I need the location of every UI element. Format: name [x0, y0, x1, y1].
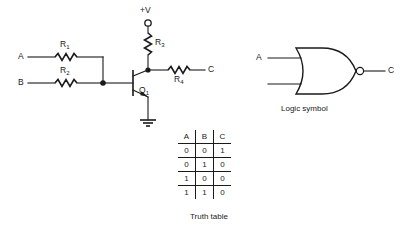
diagram-canvas: +V A B C R1 R2 R3 R4 Q1 A C Logic symbol… — [0, 0, 402, 236]
circuit-input-a-label: A — [18, 52, 24, 61]
truth-table-header-c: C — [214, 130, 232, 144]
resistor-r2-label: R2 — [60, 66, 69, 76]
truth-table-caption: Truth table — [190, 212, 228, 221]
truth-cell-b: 1 — [196, 158, 214, 172]
supply-label: +V — [140, 6, 151, 15]
truth-table: A B C 0 0 1 0 1 0 1 0 0 1 1 — [178, 130, 231, 199]
truth-cell-a: 1 — [178, 172, 196, 186]
base-junction-dot — [100, 80, 106, 86]
truth-table-header-a: A — [178, 130, 196, 144]
circuit-schematic-svg — [0, 0, 402, 236]
gate-output-c-label: C — [388, 66, 394, 75]
truth-cell-a: 0 — [178, 144, 196, 158]
truth-cell-c: 0 — [214, 172, 232, 186]
resistor-r4-symbol — [168, 67, 190, 74]
truth-cell-a: 1 — [178, 186, 196, 200]
truth-cell-b: 0 — [196, 144, 214, 158]
table-row: 1 0 0 — [178, 172, 231, 186]
truth-cell-c: 0 — [214, 186, 232, 200]
resistor-r3-symbol — [145, 33, 152, 55]
truth-table-header-b: B — [196, 130, 214, 144]
transistor-q1-label: Q1 — [139, 86, 149, 96]
inversion-bubble-icon — [356, 67, 363, 74]
nor-gate-body — [296, 48, 356, 94]
logic-symbol-caption: Logic symbol — [281, 104, 328, 113]
circuit-output-c-label: C — [208, 65, 214, 74]
truth-cell-b: 0 — [196, 172, 214, 186]
resistor-r3-label: R3 — [155, 38, 164, 48]
table-row: 0 0 1 — [178, 144, 231, 158]
truth-cell-c: 1 — [214, 144, 232, 158]
wire-collector-lead — [133, 70, 148, 76]
truth-cell-b: 1 — [196, 186, 214, 200]
circuit-input-b-label: B — [18, 78, 24, 87]
truth-table-header-row: A B C — [178, 130, 231, 144]
resistor-r1-symbol — [55, 54, 77, 61]
table-row: 0 1 0 — [178, 158, 231, 172]
supply-terminal — [145, 20, 151, 26]
resistor-r1-label: R1 — [60, 40, 69, 50]
resistor-r2-symbol — [55, 80, 77, 87]
table-row: 1 1 0 — [178, 186, 231, 200]
resistor-r4-label: R4 — [174, 75, 183, 85]
truth-cell-c: 0 — [214, 158, 232, 172]
gate-input-a-label: A — [256, 53, 262, 62]
truth-cell-a: 0 — [178, 158, 196, 172]
